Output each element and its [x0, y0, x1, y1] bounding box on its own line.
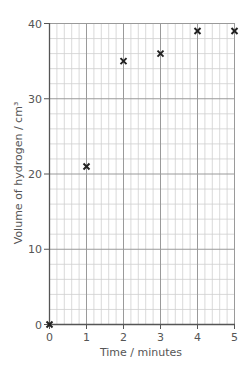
x-tick-label: 2: [120, 331, 127, 344]
x-tick-label: 5: [231, 331, 238, 344]
x-axis-label: Time / minutes: [99, 346, 182, 359]
y-axis-ticks: 010203040: [28, 18, 49, 332]
data-points: [47, 28, 238, 327]
x-tick-label: 1: [83, 331, 90, 344]
scatter-chart: 010203040 012345 Time / minutes Volume o…: [0, 0, 249, 374]
x-tick-label: 0: [46, 331, 53, 344]
y-tick-label: 20: [28, 168, 42, 181]
y-tick-label: 30: [28, 93, 42, 106]
y-tick-label: 0: [35, 319, 42, 332]
x-tick-label: 4: [194, 331, 201, 344]
y-tick-label: 40: [28, 18, 42, 31]
y-tick-label: 10: [28, 243, 42, 256]
x-tick-label: 3: [157, 331, 164, 344]
y-axis-label: Volume of hydrogen / cm³: [12, 102, 25, 245]
x-axis-ticks: 012345: [46, 324, 238, 344]
